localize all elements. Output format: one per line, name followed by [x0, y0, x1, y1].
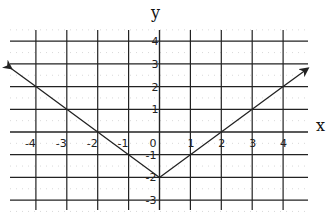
y-tick-label: 3 — [152, 58, 159, 71]
x-tick-label: 4 — [280, 137, 287, 150]
x-axis-label: x — [316, 116, 325, 135]
x-tick-label: 1 — [187, 137, 194, 150]
y-tick-label: -3 — [146, 194, 157, 207]
y-tick-label: 2 — [152, 81, 159, 94]
y-tick-label: 1 — [152, 103, 159, 116]
graph: -4-3-2-101234-3-2-11234xy — [0, 0, 328, 217]
y-axis-label: y — [150, 3, 160, 22]
y-tick-label: -1 — [146, 149, 157, 162]
x-tick-label: -2 — [87, 137, 98, 150]
x-tick-label: 3 — [249, 137, 256, 150]
y-tick-label: 4 — [152, 35, 159, 48]
x-tick-label: -3 — [56, 137, 67, 150]
x-tick-label: -4 — [25, 137, 36, 150]
x-tick-label: 2 — [218, 137, 225, 150]
